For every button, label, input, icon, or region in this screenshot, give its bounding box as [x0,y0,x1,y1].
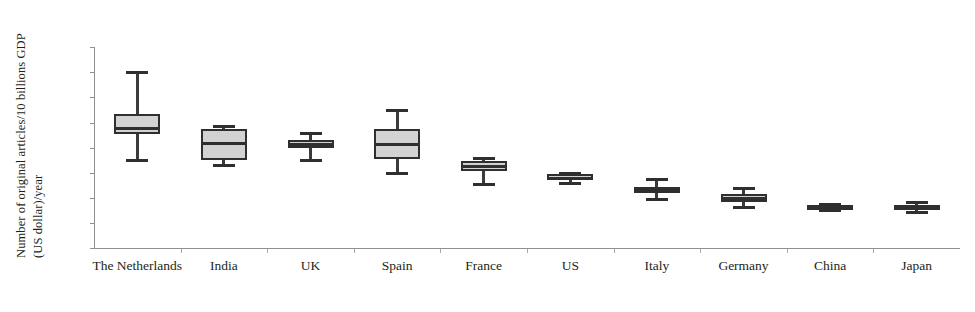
y-axis-title: Number of original articles/10 billions … [0,0,62,270]
whisker-cap-lower [213,164,235,167]
x-category-label: China [814,258,846,274]
y-tick-mark [90,223,94,224]
median-line [807,207,853,210]
x-category-label: Italy [645,258,670,274]
y-tick-mark [90,47,94,48]
whisker-cap-lower [559,182,581,185]
y-axis-title-line-1: Number of original articles/10 billions … [14,33,30,258]
whisker-cap-upper [646,178,668,181]
x-category-label: The Netherlands [93,258,183,274]
whisker-cap-upper [733,187,755,190]
whisker-cap-upper [300,132,322,135]
whisker-cap-lower [906,211,928,214]
x-category-label: Japan [901,258,932,274]
plot-area: 012345678 The NetherlandsIndiaUKSpainFra… [94,40,960,252]
x-tick-mark [787,249,788,253]
whisker-cap-lower [646,198,668,201]
box-plot-item [114,40,160,248]
y-tick-mark [90,123,94,124]
box-plot-item [374,40,420,248]
median-line [461,165,507,168]
whisker-cap-lower [126,159,148,162]
x-category-label: UK [301,258,321,274]
median-line [894,207,940,210]
whisker-cap-upper [386,109,408,112]
box-plot-item [634,40,680,248]
x-category-label: Germany [718,258,768,274]
median-line [547,177,593,180]
median-line [374,143,420,146]
whisker-cap-lower [733,206,755,209]
whisker-cap-lower [300,159,322,162]
box-plot-item [721,40,767,248]
x-category-label: France [465,258,502,274]
y-tick-mark [90,248,94,249]
whisker-cap-upper [906,201,928,204]
x-tick-mark [527,249,528,253]
whisker-cap-upper [473,157,495,160]
y-tick-mark [90,173,94,174]
y-axis-title-line-2: (US dollar)/year [31,175,47,258]
box-plot-item [288,40,334,248]
whisker-cap-upper [126,71,148,74]
x-tick-mark [181,249,182,253]
box-plot-item [201,40,247,248]
box-plot-item [894,40,940,248]
x-tick-mark [267,249,268,253]
x-tick-mark [873,249,874,253]
y-tick-mark [90,72,94,73]
median-line [721,197,767,200]
y-tick-mark [90,198,94,199]
box-plot-item [461,40,507,248]
whisker-cap-lower [386,172,408,175]
x-category-label: India [210,258,238,274]
x-tick-mark [354,249,355,253]
x-category-label: Spain [382,258,413,274]
x-category-label: US [562,258,579,274]
median-line [634,189,680,192]
median-line [201,142,247,145]
whisker-cap-lower [473,183,495,186]
y-axis-line [94,47,95,248]
box-iqr [114,114,160,134]
y-tick-mark [90,97,94,98]
box-plot-item [807,40,853,248]
box-plot-chart: Number of original articles/10 billions … [0,0,975,312]
median-line [114,127,160,130]
y-tick-mark [90,148,94,149]
box-plot-item [547,40,593,248]
x-tick-mark [614,249,615,253]
x-tick-mark [700,249,701,253]
x-tick-mark [440,249,441,253]
median-line [288,143,334,146]
